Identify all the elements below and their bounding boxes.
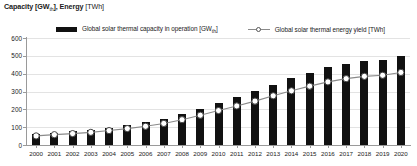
bar-2005 — [123, 125, 131, 145]
y-tick-mark — [23, 127, 26, 128]
y-tick-label: 500 — [0, 52, 22, 59]
x-tick-mark — [182, 146, 183, 148]
bar-2012 — [251, 91, 259, 145]
legend-label-capacity: Global solar thermal capacity in operati… — [82, 25, 218, 34]
y-tick-mark — [23, 92, 26, 93]
x-tick-mark — [237, 146, 238, 148]
bar-2009 — [196, 109, 204, 145]
x-tick-mark — [54, 146, 55, 148]
plot-area — [27, 38, 410, 145]
bar-2008 — [178, 114, 186, 145]
solar-thermal-chart: Capacity [GWth], Energy [TWh] Global sol… — [0, 0, 417, 166]
y-tick-label: 100 — [0, 124, 22, 131]
bar-2016 — [324, 67, 332, 145]
legend-item-capacity: Global solar thermal capacity in operati… — [56, 25, 218, 34]
bar-2002 — [69, 131, 77, 145]
bar-2001 — [50, 133, 58, 145]
y-tick-mark — [23, 56, 26, 57]
bar-swatch-icon — [56, 27, 77, 32]
y-tick-label: 0 — [0, 142, 22, 149]
y-tick-mark — [23, 38, 26, 39]
legend-item-energy: Global solar thermal energy yield [TWh] — [248, 26, 385, 33]
bar-2013 — [269, 85, 277, 145]
chart-axis-title: Capacity [GWth], Energy [TWh] — [4, 2, 104, 12]
y-tick-label: 200 — [0, 106, 22, 113]
bar-2020 — [397, 56, 405, 145]
x-tick-mark — [291, 146, 292, 148]
x-tick-mark — [127, 146, 128, 148]
bar-2010 — [215, 103, 223, 145]
axis-title-capacity: Capacity [GW — [4, 2, 50, 11]
x-tick-mark — [255, 146, 256, 148]
bar-2015 — [306, 73, 314, 145]
x-tick-mark — [200, 146, 201, 148]
bar-2019 — [379, 60, 387, 145]
bar-2000 — [32, 134, 40, 145]
x-tick-mark — [364, 146, 365, 148]
x-tick-mark — [273, 146, 274, 148]
line-marker-swatch-icon — [248, 26, 270, 33]
x-tick-mark — [164, 146, 165, 148]
x-tick-mark — [109, 146, 110, 148]
x-tick-mark — [73, 146, 74, 148]
x-tick-label-2020: 2020 — [390, 150, 412, 158]
bar-2018 — [360, 61, 368, 145]
x-tick-mark — [310, 146, 311, 148]
x-tick-mark — [146, 146, 147, 148]
y-tick-mark — [23, 74, 26, 75]
bar-2007 — [160, 119, 168, 145]
x-tick-mark — [346, 146, 347, 148]
chart-legend: Global solar thermal capacity in operati… — [56, 24, 402, 35]
y-tick-mark — [23, 109, 26, 110]
bar-2014 — [287, 78, 295, 145]
bar-2004 — [105, 128, 113, 145]
x-tick-mark — [328, 146, 329, 148]
x-tick-mark — [383, 146, 384, 148]
y-tick-mark — [23, 145, 26, 146]
bar-2011 — [233, 97, 241, 145]
y-tick-label: 600 — [0, 35, 22, 42]
y-tick-label: 400 — [0, 70, 22, 77]
bar-2017 — [342, 64, 350, 145]
legend-label-energy: Global solar thermal energy yield [TWh] — [275, 26, 385, 33]
y-tick-label: 300 — [0, 88, 22, 95]
axis-title-twh: [TWh] — [85, 2, 104, 11]
axis-title-energy: ], Energy — [54, 2, 84, 11]
x-tick-mark — [36, 146, 37, 148]
x-tick-mark — [91, 146, 92, 148]
bar-2006 — [142, 122, 150, 145]
x-tick-mark — [219, 146, 220, 148]
bar-2003 — [87, 130, 95, 145]
x-tick-mark — [401, 146, 402, 148]
